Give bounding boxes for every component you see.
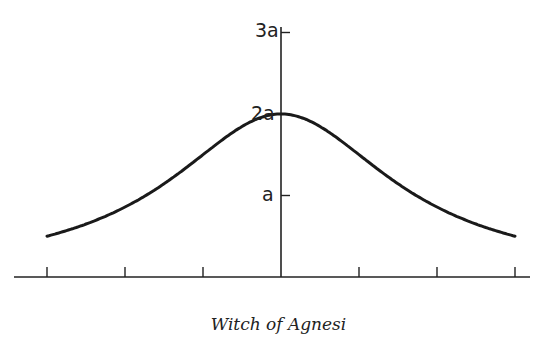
y-tick-label-a: a [262,185,274,204]
y-tick-label-3a: 3a [255,21,279,40]
figure-caption: Witch of Agnesi [0,314,557,334]
witch-of-agnesi-plot [0,0,557,362]
y-tick-label-2a: 2a [251,104,275,123]
